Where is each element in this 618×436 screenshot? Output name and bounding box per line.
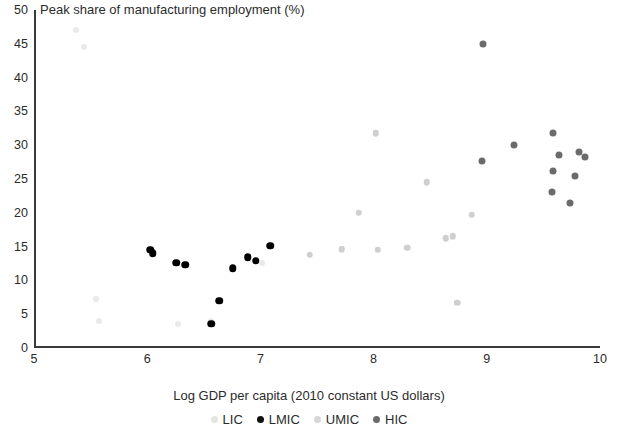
- y-axis-tick-label: 0: [2, 341, 28, 355]
- data-point-lmic: [244, 254, 252, 262]
- plot-area: [34, 10, 600, 348]
- legend-marker-icon: [314, 416, 321, 423]
- legend-label: HIC: [385, 412, 407, 427]
- data-point-hic: [510, 142, 517, 149]
- chart-legend: LICLMICUMICHIC: [0, 412, 618, 427]
- legend-item-lmic[interactable]: LMIC: [257, 412, 300, 427]
- y-axis-tick-label: 20: [2, 206, 28, 220]
- legend-label: LMIC: [269, 412, 300, 427]
- data-point-lic: [73, 27, 79, 33]
- data-point-lic: [259, 260, 265, 266]
- legend-label: LIC: [223, 412, 243, 427]
- data-point-lic: [175, 321, 181, 327]
- data-point-lmic: [229, 264, 237, 272]
- data-point-umic: [355, 210, 362, 217]
- y-axis-tick-label: 50: [2, 3, 28, 17]
- data-point-hic: [480, 40, 487, 47]
- x-axis-tick-label: 6: [144, 352, 151, 366]
- data-point-umic: [423, 179, 430, 186]
- data-point-umic: [443, 235, 450, 242]
- x-axis-tick-label: 5: [31, 352, 38, 366]
- data-point-lic: [93, 296, 99, 302]
- legend-marker-icon: [373, 416, 380, 423]
- data-point-umic: [307, 251, 314, 258]
- data-point-lmic: [208, 320, 216, 328]
- legend-item-umic[interactable]: UMIC: [314, 412, 359, 427]
- data-point-umic: [449, 233, 456, 240]
- data-point-hic: [550, 167, 557, 174]
- y-axis-tick-label: 35: [2, 104, 28, 118]
- x-axis-tick-label: 9: [483, 352, 490, 366]
- scatter-chart: Peak share of manufacturing employment (…: [0, 0, 618, 436]
- y-axis-tick-label: 30: [2, 138, 28, 152]
- data-point-umic: [375, 247, 382, 254]
- data-point-lic: [96, 318, 102, 324]
- data-point-umic: [404, 245, 411, 252]
- y-axis-tick-label: 40: [2, 71, 28, 85]
- data-point-hic: [550, 130, 557, 137]
- data-point-hic: [582, 153, 589, 160]
- data-point-umic: [372, 130, 379, 137]
- y-axis: 05101520253035404550: [0, 0, 32, 436]
- data-point-umic: [454, 299, 461, 306]
- data-point-lmic: [267, 242, 275, 250]
- data-point-hic: [555, 152, 562, 159]
- data-point-lmic: [173, 259, 181, 267]
- legend-marker-icon: [211, 416, 218, 423]
- y-axis-tick-label: 5: [2, 307, 28, 321]
- y-axis-tick-label: 15: [2, 240, 28, 254]
- data-point-hic: [567, 199, 574, 206]
- y-axis-tick-label: 45: [2, 37, 28, 51]
- data-point-lmic: [149, 250, 157, 258]
- x-axis-tick-label: 8: [370, 352, 377, 366]
- data-point-lic: [81, 44, 87, 50]
- x-axis-tick-label: 7: [257, 352, 264, 366]
- legend-item-lic[interactable]: LIC: [211, 412, 243, 427]
- data-point-hic: [479, 157, 486, 164]
- data-point-lmic: [182, 261, 190, 269]
- y-axis-tick-label: 10: [2, 273, 28, 287]
- data-point-hic: [549, 188, 556, 195]
- x-axis-label: Log GDP per capita (2010 constant US dol…: [0, 388, 618, 403]
- data-point-umic: [469, 212, 476, 219]
- x-axis-tick-label: 10: [593, 352, 607, 366]
- data-point-lmic: [216, 297, 224, 305]
- data-point-lmic: [252, 257, 260, 265]
- legend-item-hic[interactable]: HIC: [373, 412, 407, 427]
- data-point-hic: [571, 173, 578, 180]
- legend-marker-icon: [257, 416, 264, 423]
- y-axis-tick-label: 25: [2, 172, 28, 186]
- legend-label: UMIC: [326, 412, 359, 427]
- data-point-umic: [338, 246, 345, 253]
